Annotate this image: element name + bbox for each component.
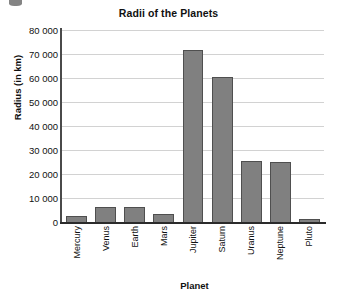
bar-slot xyxy=(208,30,237,222)
plot-area xyxy=(62,30,324,222)
bar-slot xyxy=(91,30,120,222)
x-tick-label-pluto: Pluto xyxy=(304,226,314,247)
x-label-slot: Mars xyxy=(149,224,178,280)
x-tick-label-mars: Mars xyxy=(159,226,169,246)
bar-slot xyxy=(149,30,178,222)
y-tick-label: 30 000 xyxy=(2,145,58,156)
bar-slot xyxy=(295,30,324,222)
x-axis-tick-labels: MercuryVenusEarthMarsJupiterSaturnUranus… xyxy=(62,224,324,280)
y-tick-label: 20 000 xyxy=(2,169,58,180)
x-tick-label-venus: Venus xyxy=(101,226,111,251)
bar-jupiter xyxy=(183,50,204,222)
bar-slot xyxy=(120,30,149,222)
x-label-slot: Saturn xyxy=(208,224,237,280)
bar-neptune xyxy=(270,162,291,222)
bar-earth xyxy=(124,207,145,222)
bar-series xyxy=(62,30,324,222)
x-tick-label-neptune: Neptune xyxy=(275,226,285,260)
x-tick-label-earth: Earth xyxy=(130,226,140,248)
x-tick-label-saturn: Saturn xyxy=(217,226,227,253)
bar-slot xyxy=(62,30,91,222)
x-tick-label-uranus: Uranus xyxy=(246,226,256,255)
x-axis-title: Planet xyxy=(60,280,329,291)
bar-slot xyxy=(266,30,295,222)
bar-saturn xyxy=(212,77,233,222)
bar-chart: Radii of the Planets Radius (in km) 80 0… xyxy=(0,0,337,298)
y-tick-label: 50 000 xyxy=(2,97,58,108)
x-label-slot: Earth xyxy=(120,224,149,280)
page-artifact xyxy=(9,0,22,6)
y-tick-label: 40 000 xyxy=(2,121,58,132)
y-axis-tick-labels: 80 00070 00060 00050 00040 00030 00020 0… xyxy=(0,30,58,222)
y-tick-label: 10 000 xyxy=(2,193,58,204)
bar-venus xyxy=(95,207,116,222)
y-tick-label: 80 000 xyxy=(2,25,58,36)
x-tick-label-mercury: Mercury xyxy=(72,226,82,259)
x-label-slot: Mercury xyxy=(62,224,91,280)
bar-slot xyxy=(178,30,207,222)
bar-mercury xyxy=(66,216,87,222)
bar-uranus xyxy=(241,161,262,222)
chart-title: Radii of the Planets xyxy=(0,7,337,19)
x-label-slot: Pluto xyxy=(295,224,324,280)
y-tick-label: 70 000 xyxy=(2,49,58,60)
x-label-slot: Uranus xyxy=(237,224,266,280)
y-tick-label: 60 000 xyxy=(2,73,58,84)
y-tick-label: 0 xyxy=(2,217,58,228)
x-label-slot: Neptune xyxy=(266,224,295,280)
x-label-slot: Venus xyxy=(91,224,120,280)
bar-slot xyxy=(237,30,266,222)
bar-pluto xyxy=(299,219,320,222)
x-label-slot: Jupiter xyxy=(178,224,207,280)
x-tick-label-jupiter: Jupiter xyxy=(188,226,198,253)
bar-mars xyxy=(153,214,174,222)
